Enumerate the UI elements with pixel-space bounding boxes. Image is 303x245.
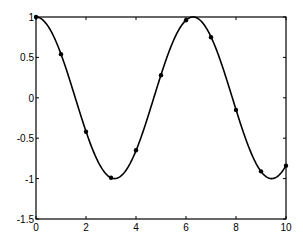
y-tick-label: 1	[28, 12, 34, 23]
y-tick-label: 0.5	[20, 52, 34, 63]
data-point-marker	[109, 176, 113, 180]
cosine-curve	[36, 17, 286, 179]
x-tick-label: 8	[233, 222, 239, 233]
x-tick-label: 6	[183, 222, 189, 233]
x-tick-label: 2	[83, 222, 89, 233]
plot-frame	[36, 17, 286, 219]
line-chart: -1.5-1-0.500.51 0246810	[0, 0, 303, 245]
x-tick-label: 10	[280, 222, 292, 233]
axes	[36, 17, 286, 219]
data-point-marker	[159, 73, 163, 77]
x-tick-label: 0	[33, 222, 39, 233]
data-point-marker	[259, 169, 263, 173]
data-point-marker	[84, 130, 88, 134]
data-point-marker	[134, 148, 138, 152]
data-point-marker	[209, 35, 213, 39]
y-tick-label: -1.5	[17, 214, 35, 225]
y-tick-label: -1	[25, 174, 34, 185]
data-point-marker	[234, 108, 238, 112]
data-markers	[34, 15, 288, 180]
x-axis-ticks: 0246810	[33, 17, 292, 233]
data-point-marker	[59, 52, 63, 56]
y-tick-label: -0.5	[17, 133, 35, 144]
x-tick-label: 4	[133, 222, 139, 233]
y-tick-label: 0	[28, 93, 34, 104]
data-point-marker	[284, 163, 288, 167]
